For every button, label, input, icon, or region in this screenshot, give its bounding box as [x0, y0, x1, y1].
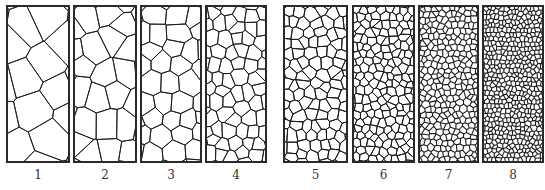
grain-boundaries [206, 6, 266, 162]
grain-panel-1 [7, 6, 69, 162]
grain-boundaries [7, 6, 69, 162]
panel-label-7: 7 [439, 168, 459, 182]
panel-label-6: 6 [374, 168, 394, 182]
grain-panel-7 [419, 6, 478, 162]
grain-panel-2 [74, 6, 136, 162]
grain-boundaries [141, 6, 201, 162]
grain-panel-5 [284, 6, 347, 162]
grain-size-diagram [0, 0, 545, 190]
panel-label-8: 8 [503, 168, 523, 182]
grain-panel-6 [353, 6, 414, 162]
grain-panel-3 [141, 6, 201, 162]
panel-label-4: 4 [226, 168, 246, 182]
grain-boundaries [483, 6, 543, 162]
grain-panel-8 [483, 6, 543, 162]
panel-label-2: 2 [95, 168, 115, 182]
panel-label-1: 1 [28, 168, 48, 182]
grain-boundaries [74, 6, 136, 162]
panel-label-3: 3 [161, 168, 181, 182]
grain-panel-4 [206, 6, 266, 162]
grain-boundaries [353, 6, 414, 162]
panel-label-5: 5 [306, 168, 326, 182]
grain-boundaries [419, 6, 478, 162]
grain-boundaries [284, 6, 347, 162]
